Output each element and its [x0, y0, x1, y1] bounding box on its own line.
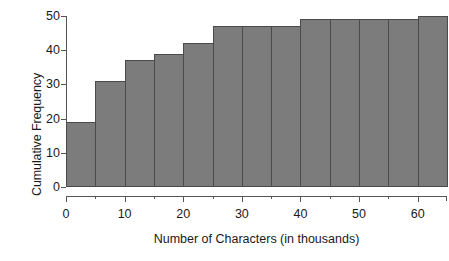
x-tick-major	[300, 196, 301, 202]
bar	[418, 16, 448, 187]
bar	[359, 19, 389, 187]
x-axis-title: Number of Characters (in thousands)	[66, 232, 447, 246]
plot-area	[66, 16, 447, 187]
x-tick-major	[183, 196, 184, 202]
x-axis-cap	[66, 196, 67, 201]
x-tick-minor	[330, 196, 331, 199]
x-tick-minor	[95, 196, 96, 199]
y-tick-label: 40	[38, 44, 60, 56]
cumulative-frequency-histogram: Cumulative Frequency 01020304050 0102030…	[0, 0, 449, 261]
x-tick-label: 0	[46, 207, 86, 222]
x-tick-minor	[388, 196, 389, 199]
y-tick-label: 10	[38, 147, 60, 159]
x-tick-minor	[154, 196, 155, 199]
y-tick-mark	[61, 153, 66, 154]
x-tick-label: 60	[398, 207, 438, 222]
x-tick-label: 10	[105, 207, 145, 222]
x-tick-label: 40	[280, 207, 320, 222]
bar	[125, 60, 155, 187]
x-axis-cap	[446, 196, 447, 201]
bars-layer	[66, 16, 447, 187]
bar	[66, 122, 96, 187]
bar	[242, 26, 272, 187]
x-tick-major	[242, 196, 243, 202]
x-tick-minor	[271, 196, 272, 199]
x-tick-major	[125, 196, 126, 202]
y-tick-label: 30	[38, 78, 60, 90]
bar	[271, 26, 301, 187]
bar	[300, 19, 330, 187]
y-tick-label: 20	[38, 113, 60, 125]
y-tick-label: 50	[38, 10, 60, 22]
y-tick-mark	[61, 187, 66, 188]
x-axis-tick-labels: 0102030405060	[66, 207, 447, 223]
x-tick-major	[359, 196, 360, 202]
bar	[154, 54, 184, 187]
y-tick-mark	[61, 16, 66, 17]
y-tick-label: 0	[38, 181, 60, 193]
x-tick-major	[418, 196, 419, 202]
bar	[95, 81, 125, 187]
x-tick-label: 20	[163, 207, 203, 222]
x-axis-line	[66, 196, 447, 197]
y-tick-mark	[61, 50, 66, 51]
x-tick-label: 50	[339, 207, 379, 222]
bar	[388, 19, 418, 187]
y-tick-mark	[61, 119, 66, 120]
x-tick-label: 30	[222, 207, 262, 222]
y-tick-mark	[61, 84, 66, 85]
bar	[330, 19, 360, 187]
bar	[213, 26, 243, 187]
x-tick-minor	[213, 196, 214, 199]
bar	[183, 43, 213, 187]
